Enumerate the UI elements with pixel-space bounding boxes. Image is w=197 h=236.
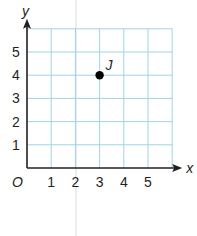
x-tick-label: 4 <box>120 174 128 190</box>
y-tick-label: 1 <box>12 137 20 153</box>
x-axis-label: x <box>185 160 194 176</box>
x-tick-label: 1 <box>47 174 55 190</box>
coordinate-grid: xyO1234512345 J <box>0 0 197 236</box>
x-tick-label: 5 <box>144 174 152 190</box>
y-tick-label: 2 <box>12 114 20 130</box>
grid-lines <box>27 29 172 168</box>
point-marker <box>95 71 103 79</box>
x-tick-label: 3 <box>96 174 104 190</box>
origin-label: O <box>12 174 23 190</box>
x-tick-label: 2 <box>72 174 80 190</box>
data-points: J <box>95 57 113 79</box>
y-tick-label: 4 <box>12 67 20 83</box>
y-tick-label: 5 <box>12 44 20 60</box>
point-label: J <box>105 57 114 73</box>
y-axis-label: y <box>21 3 30 19</box>
tick-labels: xyO1234512345 <box>12 3 194 190</box>
y-tick-label: 3 <box>12 90 20 106</box>
axes <box>23 19 182 172</box>
